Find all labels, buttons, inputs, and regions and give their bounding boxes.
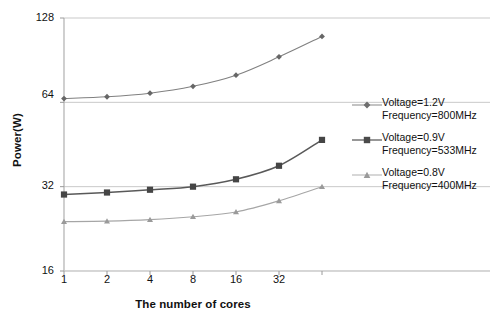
x-tick-label-2: 2 <box>92 273 122 285</box>
data-point-marker <box>276 54 282 60</box>
legend-item-voltage-0-9v[interactable]: Voltage=0.9V Frequency=533MHz <box>352 131 488 157</box>
data-point-marker <box>61 96 67 102</box>
data-point-marker <box>319 137 325 143</box>
data-point-marker <box>190 83 196 89</box>
legend-item-sublabel: Frequency=533MHz <box>382 144 488 157</box>
data-point-marker <box>190 184 196 190</box>
data-point-marker <box>319 34 325 40</box>
data-point-marker <box>233 176 239 182</box>
data-point-marker <box>276 163 282 169</box>
chart-legend: Voltage=1.2V Frequency=800MHz Voltage=0.… <box>352 96 488 201</box>
legend-item-voltage-1-2v[interactable]: Voltage=1.2V Frequency=800MHz <box>352 96 488 122</box>
data-point-marker <box>233 72 239 78</box>
x-tick-label-16: 16 <box>221 273 251 285</box>
data-point-marker <box>61 191 67 197</box>
diamond-marker-icon <box>352 97 382 109</box>
y-tick-label-64: 64 <box>18 88 54 100</box>
x-tick-label-32: 32 <box>264 273 294 285</box>
x-tick-label-4: 4 <box>135 273 165 285</box>
x-tick-label-8: 8 <box>178 273 208 285</box>
y-axis-title: Power(W) <box>6 0 28 280</box>
x-axis-title: The number of cores <box>64 298 322 310</box>
data-point-marker <box>147 187 153 193</box>
legend-item-label: Voltage=1.2V <box>382 96 445 109</box>
square-marker-icon <box>352 132 382 144</box>
y-tick-label-128: 128 <box>18 11 54 23</box>
legend-item-label: Voltage=0.8V <box>382 166 445 179</box>
triangle-marker-icon <box>352 167 382 179</box>
series-line-1 <box>64 36 322 98</box>
data-point-marker <box>147 90 153 96</box>
data-point-marker <box>104 94 110 100</box>
chart-figure: Power(W) The number of cores 128 64 32 1… <box>0 0 490 325</box>
legend-item-sublabel: Frequency=400MHz <box>382 179 488 192</box>
x-tick-label-1: 1 <box>49 273 79 285</box>
y-axis-title-text: Power(W) <box>11 113 23 167</box>
legend-item-sublabel: Frequency=800MHz <box>382 109 488 122</box>
y-tick-label-32: 32 <box>18 179 54 191</box>
data-point-marker <box>104 189 110 195</box>
legend-item-label: Voltage=0.9V <box>382 131 445 144</box>
legend-item-voltage-0-8v[interactable]: Voltage=0.8V Frequency=400MHz <box>352 166 488 192</box>
